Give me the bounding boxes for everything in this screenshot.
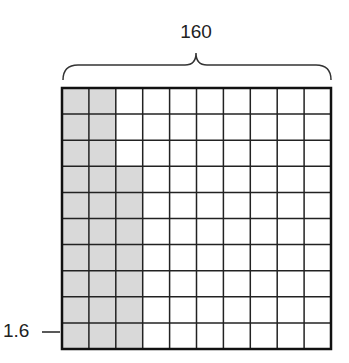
- shaded-cell: [89, 271, 116, 297]
- shaded-cell: [62, 166, 89, 192]
- shaded-cell: [89, 297, 116, 323]
- shaded-cell: [62, 245, 89, 271]
- shaded-cell: [62, 192, 89, 218]
- shaded-cell: [116, 245, 143, 271]
- shaded-cell: [89, 140, 116, 166]
- curly-brace: [63, 53, 331, 80]
- shaded-cell: [116, 323, 143, 349]
- shaded-cell: [116, 166, 143, 192]
- shaded-cell: [116, 219, 143, 245]
- shaded-cell: [62, 297, 89, 323]
- shaded-cell: [62, 323, 89, 349]
- shaded-cell: [116, 192, 143, 218]
- shaded-cell: [62, 88, 89, 114]
- shaded-cell: [89, 245, 116, 271]
- shaded-cell: [89, 114, 116, 140]
- shaded-cell: [89, 192, 116, 218]
- shaded-cell: [89, 323, 116, 349]
- shaded-cell: [62, 219, 89, 245]
- shaded-cell: [62, 271, 89, 297]
- hundred-grid-diagram: [0, 0, 349, 363]
- shaded-cell: [62, 140, 89, 166]
- shaded-cell: [89, 166, 116, 192]
- shaded-cell: [62, 114, 89, 140]
- shaded-cell: [116, 297, 143, 323]
- shaded-cell: [89, 88, 116, 114]
- shaded-cell: [116, 271, 143, 297]
- shaded-cell: [89, 219, 116, 245]
